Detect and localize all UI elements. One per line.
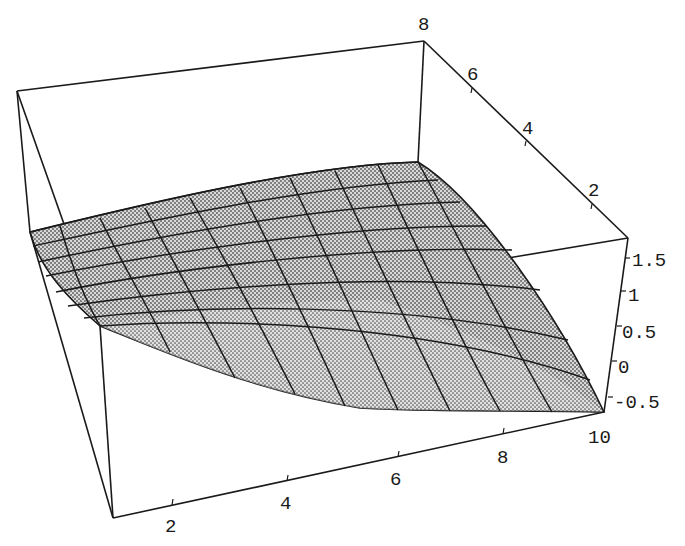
z-tick-label: 1 xyxy=(628,285,639,307)
z-tick-label: 1.5 xyxy=(632,250,666,272)
y-axis: 2 4 6 8 xyxy=(418,14,599,209)
x-axis: 2 4 6 8 10 xyxy=(165,427,611,538)
x-tick-label: 4 xyxy=(280,493,291,515)
x-tick-label: 10 xyxy=(588,427,611,449)
y-tick-label: 6 xyxy=(467,64,478,86)
y-tick-label: 2 xyxy=(588,180,599,202)
z-axis: -0.5 0 0.5 1 1.5 xyxy=(608,250,666,414)
x-tick-label: 6 xyxy=(390,469,401,491)
z-tick-label: 0 xyxy=(618,357,629,379)
x-tick-label: 2 xyxy=(165,516,176,538)
x-tick-label: 8 xyxy=(497,447,508,469)
y-tick-label: 8 xyxy=(418,14,429,36)
z-tick-label: -0.5 xyxy=(614,392,660,414)
y-tick-label: 4 xyxy=(522,118,533,140)
surface-plot: 2 4 6 8 10 2 4 6 8 -0.5 0 0.5 1 1.5 xyxy=(0,0,685,546)
z-tick-label: 0.5 xyxy=(622,322,656,344)
x-axis-ticks xyxy=(172,428,504,505)
